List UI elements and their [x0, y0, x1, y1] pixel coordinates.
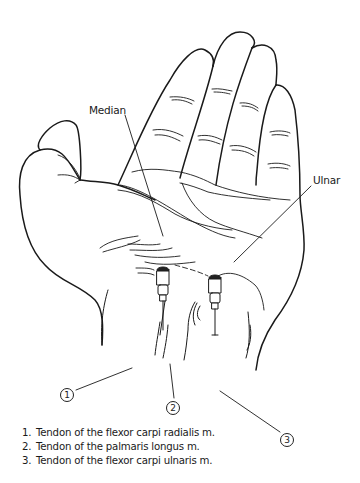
leader-lines [76, 115, 311, 432]
legend-item-1: 1.Tendon of the flexor carpi radialis m. [22, 426, 215, 440]
legend-number: 2. [22, 440, 36, 454]
median-nerve-label: Median [89, 104, 126, 116]
marker-3-leader-line [220, 391, 280, 432]
legend-text: Tendon of the palmaris longus m. [36, 441, 200, 452]
legend-number: 3. [22, 454, 36, 468]
legend-item-3: 3.Tendon of the flexor carpi ulnaris m. [22, 454, 215, 468]
marker-2-leader-line [170, 364, 174, 398]
wrist-lines [102, 290, 251, 360]
marker-1: 1 [60, 388, 74, 402]
marker-2: 2 [166, 401, 180, 415]
finger-creases [153, 89, 290, 169]
marker-1-leader-line [76, 368, 132, 390]
median-leader-line [125, 115, 163, 236]
ulnar-nerve-label: Ulnar [313, 174, 340, 186]
legend-number: 1. [22, 426, 36, 440]
palm-creases [58, 155, 290, 310]
marker-3: 3 [280, 433, 294, 447]
legend: 1.Tendon of the flexor carpi radialis m.… [22, 426, 215, 468]
legend-text: Tendon of the flexor carpi ulnaris m. [36, 455, 212, 466]
legend-text: Tendon of the flexor carpi radialis m. [36, 427, 215, 438]
needle-1 [157, 267, 169, 335]
legend-item-2: 2.Tendon of the palmaris longus m. [22, 440, 215, 454]
needle-2 [209, 275, 221, 335]
hand-illustration [0, 0, 360, 483]
